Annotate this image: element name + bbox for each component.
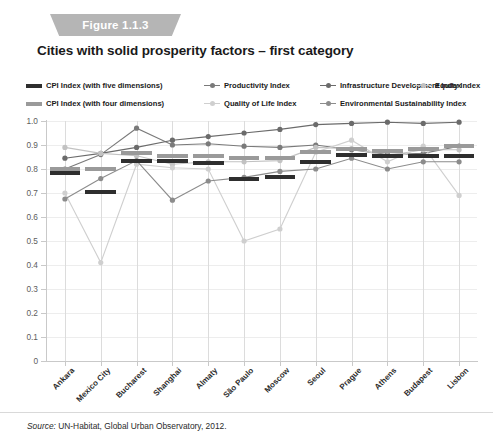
legend-item[interactable]: Equity Index — [415, 78, 480, 93]
legend-item-label: Equity Index — [435, 81, 480, 90]
y-axis-tick-mark — [41, 241, 46, 242]
x-axis-tick-mark — [208, 361, 209, 366]
series-data-point — [134, 126, 139, 131]
x-axis-tick-mark — [316, 361, 317, 366]
legend-row: CPI Index (with five dimensions)Producti… — [26, 78, 476, 93]
series-data-point — [241, 238, 246, 243]
y-axis-tick-label: 0.2 — [14, 308, 38, 318]
x-axis-tick-mark — [423, 361, 424, 366]
series-data-point — [349, 121, 354, 126]
x-axis-tick-mark — [101, 361, 102, 366]
legend-item-label: Environmental Sustainability Index — [340, 99, 466, 108]
series-data-point — [385, 166, 390, 171]
legend-item[interactable]: Environmental Sustainability Index — [320, 96, 466, 111]
y-axis-tick-mark — [41, 121, 46, 122]
cpi-bar-marker — [265, 175, 296, 179]
cpi-bar-marker — [444, 154, 475, 158]
series-data-point — [170, 165, 175, 170]
series-data-point — [206, 166, 211, 171]
cpi-bar-marker — [336, 147, 367, 151]
y-axis-tick-label: 0.4 — [14, 260, 38, 270]
legend-bar-swatch-icon — [26, 84, 42, 88]
legend-bar-swatch-icon — [26, 102, 42, 106]
series-data-point — [206, 178, 211, 183]
series-data-point — [170, 142, 175, 147]
cpi-bar-marker — [50, 167, 81, 171]
legend-item[interactable]: Productivity Index — [204, 78, 290, 93]
plot-area — [47, 121, 477, 361]
x-axis-tick-mark — [459, 361, 460, 366]
series-data-point — [456, 159, 461, 164]
series-data-point — [62, 156, 67, 161]
series-line — [65, 158, 459, 200]
y-axis-tick-mark — [41, 361, 46, 362]
series-data-point — [277, 169, 282, 174]
y-axis-tick-mark — [41, 217, 46, 218]
series-data-point — [206, 141, 211, 146]
cpi-bar-marker — [193, 161, 224, 165]
series-data-point — [277, 127, 282, 132]
cpi-bar-marker — [408, 147, 439, 151]
x-axis-tick-mark — [387, 361, 388, 366]
series-data-point — [62, 196, 67, 201]
y-axis-tick-label: 0.6 — [14, 212, 38, 222]
x-axis-tick-mark — [172, 361, 173, 366]
cpi-bar-marker — [372, 154, 403, 158]
cpi-bar-marker — [121, 159, 152, 163]
x-axis-tick-mark — [137, 361, 138, 366]
y-axis-tick-mark — [41, 289, 46, 290]
cpi-bar-marker — [229, 156, 260, 160]
series-data-point — [313, 122, 318, 127]
legend-line-dot-swatch-icon — [204, 99, 220, 108]
legend-line-dot-swatch-icon — [320, 81, 336, 90]
y-axis-tick-label: 1.0 — [14, 116, 38, 126]
series-data-point — [170, 138, 175, 143]
x-axis-tick-mark — [65, 361, 66, 366]
cpi-bar-marker — [193, 154, 224, 158]
y-axis-tick-label: 0.5 — [14, 236, 38, 246]
series-data-point — [313, 166, 318, 171]
y-axis-tick-mark — [41, 169, 46, 170]
cpi-bar-marker — [85, 167, 116, 171]
legend-item-label: Productivity Index — [224, 81, 290, 90]
y-axis-tick-mark — [41, 145, 46, 146]
legend-line-dot-swatch-icon — [320, 99, 336, 108]
series-data-point — [241, 144, 246, 149]
source-text: UN-Habitat, Global Urban Observatory, 20… — [56, 421, 227, 431]
figure-page: Figure 1.1.3 Cities with solid prosperit… — [0, 0, 493, 440]
cpi-bar-marker — [372, 149, 403, 153]
legend-row: CPI Index (with four dimensions)Quality … — [26, 96, 476, 111]
x-axis-tick-mark — [352, 361, 353, 366]
legend-line-dot-swatch-icon — [204, 81, 220, 90]
legend-item[interactable]: CPI Index (with four dimensions) — [26, 96, 164, 111]
source-note: Source: UN-Habitat, Global Urban Observa… — [27, 421, 227, 431]
y-axis-tick-label: 0.1 — [14, 332, 38, 342]
legend-item-label: Quality of Life Index — [224, 99, 297, 108]
series-data-point — [98, 151, 103, 156]
x-axis-tick-mark — [280, 361, 281, 366]
y-axis-tick-label: 0.8 — [14, 164, 38, 174]
series-data-point — [385, 159, 390, 164]
series-data-point — [206, 134, 211, 139]
cpi-bar-marker — [121, 151, 152, 155]
legend-item-label: CPI Index (with four dimensions) — [46, 99, 164, 108]
series-data-point — [134, 145, 139, 150]
y-axis-tick-label: 0 — [14, 356, 38, 366]
legend-item[interactable]: CPI Index (with five dimensions) — [26, 78, 162, 93]
cpi-bar-marker — [157, 159, 188, 163]
cpi-bar-marker — [336, 153, 367, 157]
legend-item-label: CPI Index (with five dimensions) — [46, 81, 162, 90]
cpi-bar-marker — [408, 154, 439, 158]
series-data-point — [421, 121, 426, 126]
cpi-bar-marker — [50, 171, 81, 175]
series-data-point — [170, 198, 175, 203]
series-data-point — [456, 193, 461, 198]
series-data-point — [385, 120, 390, 125]
y-axis-tick-mark — [41, 313, 46, 314]
figure-banner-label: Figure 1.1.3 — [50, 14, 181, 36]
cpi-bar-marker — [444, 144, 475, 148]
series-data-point — [241, 130, 246, 135]
series-data-point — [62, 145, 67, 150]
legend-item[interactable]: Quality of Life Index — [204, 96, 297, 111]
chart-title: Cities with solid prosperity factors – f… — [37, 43, 354, 58]
